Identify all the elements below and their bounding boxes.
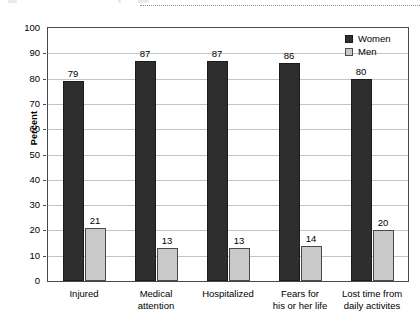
y-axis-tick-label: 30 <box>16 200 40 210</box>
light-square-icon <box>345 48 353 56</box>
dark-square-icon <box>345 35 353 43</box>
x-axis-label-5: Lost time from daily activites <box>327 288 417 311</box>
legend-item-women[interactable]: Women <box>345 32 391 45</box>
bar-value-label: 21 <box>77 216 114 226</box>
bar-value-label: 87 <box>199 49 236 59</box>
bar-women-2 <box>135 61 156 281</box>
y-axis-tick-mark <box>43 230 46 231</box>
bar-men-2 <box>157 248 178 281</box>
bar-women-4 <box>279 63 300 281</box>
bar-value-label: 13 <box>221 236 258 246</box>
bar-value-label: 20 <box>365 218 402 228</box>
y-axis-tick-mark <box>43 104 46 105</box>
y-axis-tick-mark <box>43 180 46 181</box>
y-axis-tick-mark <box>43 205 46 206</box>
bar-men-1 <box>85 228 106 281</box>
bar-value-label: 14 <box>293 234 330 244</box>
legend-item-label: Women <box>358 33 391 44</box>
bar-men-3 <box>229 248 250 281</box>
y-axis-tick-label: 0 <box>16 276 40 286</box>
y-axis-tick-label: 80 <box>16 74 40 84</box>
y-axis-tick-label: 100 <box>16 23 40 33</box>
y-axis-tick-mark <box>43 79 46 80</box>
y-axis-tick-label: 20 <box>16 225 40 235</box>
chart-legend: WomenMen <box>345 32 391 58</box>
legend-item-men[interactable]: Men <box>345 45 391 58</box>
bar-women-1 <box>63 81 84 281</box>
legend-item-label: Men <box>358 46 376 57</box>
bar-women-3 <box>207 61 228 281</box>
y-axis-tick-mark <box>43 256 46 257</box>
bar-value-label: 87 <box>127 49 164 59</box>
bar-value-label: 79 <box>55 69 92 79</box>
bar-chart-figure: Percent 1009080706050403020100 InjuredMe… <box>0 0 420 320</box>
bar-value-label: 13 <box>149 236 186 246</box>
y-axis-tick-mark <box>43 155 46 156</box>
bar-men-4 <box>301 246 322 281</box>
y-axis-tick-label: 90 <box>16 48 40 58</box>
y-axis-tick-label: 10 <box>16 251 40 261</box>
y-axis-tick-label: 70 <box>16 99 40 109</box>
y-axis-tick-mark <box>43 53 46 54</box>
y-axis-tick-label: 50 <box>16 150 40 160</box>
bar-value-label: 86 <box>271 51 308 61</box>
bar-men-5 <box>373 230 394 281</box>
bar-women-5 <box>351 79 372 281</box>
bar-value-label: 80 <box>343 67 380 77</box>
y-axis-tick-mark <box>43 129 46 130</box>
y-axis-tick-label: 40 <box>16 175 40 185</box>
y-axis-tick-label: 60 <box>16 124 40 134</box>
